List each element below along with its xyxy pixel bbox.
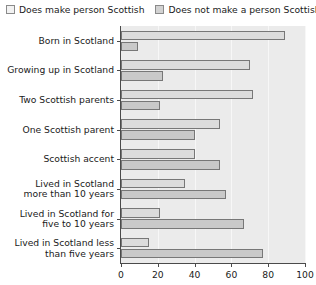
legend-swatch-icon-series-1	[155, 5, 164, 14]
x-tick-label-100: 100	[296, 269, 314, 280]
category-label-5: Lived in Scotland more than 10 years	[0, 178, 114, 199]
x-tick-80	[268, 263, 269, 267]
category-label-4: Scottish accent	[0, 154, 114, 165]
legend-label-series-1: Does not make a person Scottish	[168, 5, 316, 14]
bar-series-0-category-6	[121, 208, 160, 218]
bar-series-1-category-3	[121, 130, 195, 140]
category-label-2: Two Scottish parents	[0, 95, 114, 106]
category-label-6: Lived in Scotland for five to 10 years	[0, 208, 114, 229]
bar-chart: Does make person Scottish Does not make …	[0, 0, 316, 285]
category-label-0: Born in Scotland	[0, 36, 114, 47]
bar-series-1-category-6	[121, 219, 244, 229]
chart-legend: Does make person Scottish Does not make …	[0, 2, 316, 18]
legend-swatch-icon-series-0	[6, 5, 15, 14]
bar-series-0-category-7	[121, 238, 149, 248]
x-tick-40	[195, 263, 196, 267]
gridline-100	[305, 26, 306, 263]
category-label-3: One Scottish parent	[0, 124, 114, 135]
x-tick-label-80: 80	[262, 269, 274, 280]
x-tick-100	[305, 263, 306, 267]
x-tick-0	[121, 263, 122, 267]
category-label-1: Growing up in Scotland	[0, 65, 114, 76]
legend-entry-does-make: Does make person Scottish	[6, 5, 144, 14]
bar-series-0-category-4	[121, 149, 195, 159]
x-axis-line	[120, 263, 306, 264]
bar-series-0-category-0	[121, 31, 285, 41]
bar-series-1-category-0	[121, 42, 138, 52]
legend-entry-does-not-make: Does not make a person Scottish	[155, 5, 316, 14]
bar-series-1-category-2	[121, 101, 160, 111]
bar-series-1-category-4	[121, 160, 220, 170]
gridline-80	[268, 26, 269, 263]
x-tick-label-40: 40	[189, 269, 201, 280]
bar-series-1-category-7	[121, 249, 263, 259]
x-tick-20	[158, 263, 159, 267]
bar-series-0-category-5	[121, 179, 185, 189]
x-tick-label-0: 0	[118, 269, 124, 280]
x-tick-label-60: 60	[226, 269, 238, 280]
bar-series-0-category-2	[121, 90, 253, 100]
bar-series-1-category-5	[121, 190, 226, 200]
bar-series-0-category-1	[121, 60, 250, 70]
bar-series-0-category-3	[121, 119, 220, 129]
category-label-7: Lived in Scotland less than five years	[0, 238, 114, 259]
bar-series-1-category-1	[121, 71, 163, 81]
x-tick-label-20: 20	[152, 269, 164, 280]
legend-label-series-0: Does make person Scottish	[19, 5, 144, 14]
x-tick-60	[231, 263, 232, 267]
